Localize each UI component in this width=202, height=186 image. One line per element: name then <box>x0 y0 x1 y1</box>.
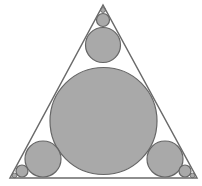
circle-right-small <box>179 165 191 177</box>
circle-top-medium <box>86 28 121 63</box>
circle-top-small <box>97 14 110 27</box>
circle-left-small <box>16 165 28 177</box>
circles-group <box>12 8 195 178</box>
circle-right-medium <box>147 141 183 177</box>
triangle-circles-diagram <box>0 0 202 186</box>
circle-left-medium <box>25 141 61 177</box>
circle-incircle <box>50 68 157 175</box>
